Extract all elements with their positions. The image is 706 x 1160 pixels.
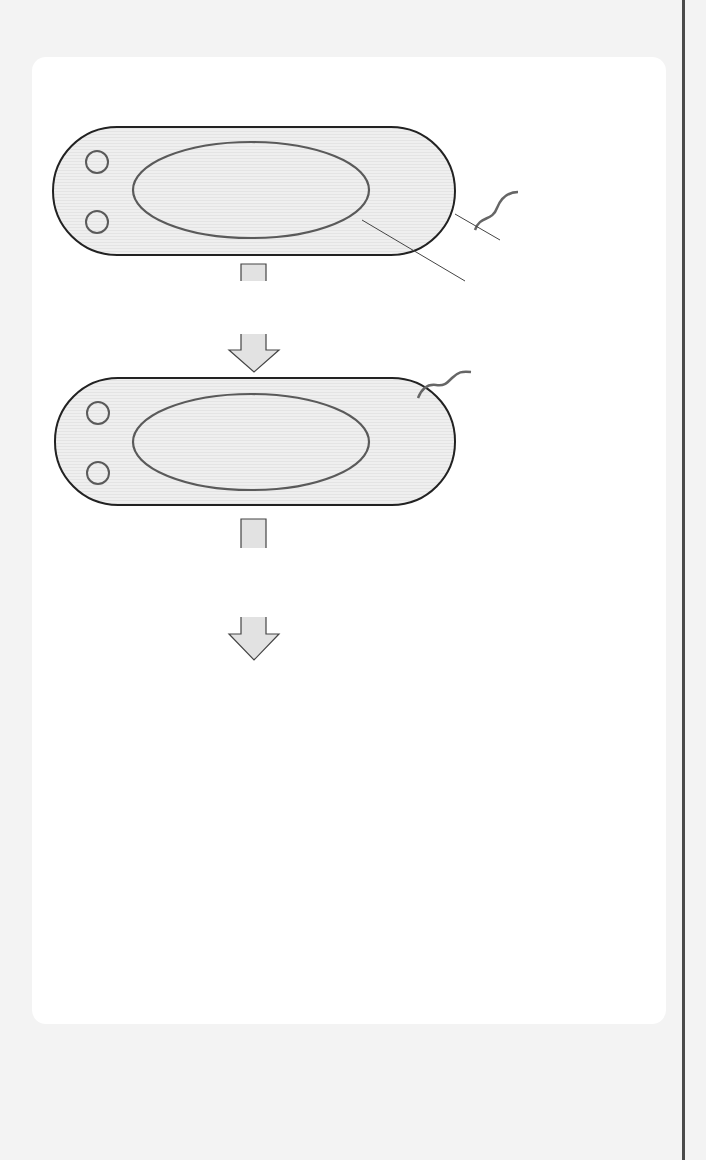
step-arrow-1 [229, 264, 279, 372]
foreign-dna-fragment [475, 192, 518, 230]
stage-2-bacterium [55, 372, 471, 505]
stage-1-bacterium [53, 127, 518, 281]
bacterium-pointer-line [455, 214, 500, 240]
stage-3-bacterium [55, 675, 455, 849]
step-arrow-2 [229, 519, 279, 660]
